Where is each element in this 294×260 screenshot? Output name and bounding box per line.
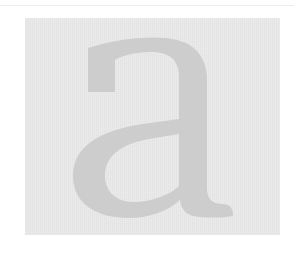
letter-a-glyph-icon (25, 18, 280, 235)
glyph-preview: a (25, 18, 280, 235)
top-divider (0, 5, 294, 6)
